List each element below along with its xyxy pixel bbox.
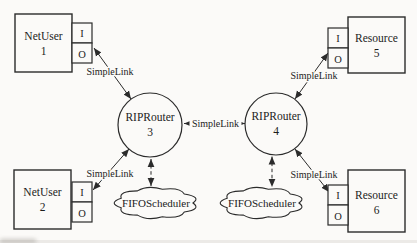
fifoscheduler-right: FIFOScheduler xyxy=(220,187,302,218)
topology-diagram: NetUser 1 I O Resource 5 I O NetUser 2 I… xyxy=(0,0,417,243)
router3-title: RIPRouter xyxy=(125,111,174,123)
node-riprouter-3: RIPRouter 3 xyxy=(118,93,182,157)
node-netuser-2: NetUser 2 I O xyxy=(14,170,92,229)
resource6-box xyxy=(348,170,405,232)
resource6-input-label: I xyxy=(336,190,340,201)
netuser1-box xyxy=(15,14,72,72)
fifoscheduler-right-label: FIFOScheduler xyxy=(228,197,296,209)
simplelink-label-resource5: SimpleLink xyxy=(290,70,337,81)
router3-number: 3 xyxy=(147,126,153,138)
router4-number: 4 xyxy=(273,125,279,137)
netuser1-number: 1 xyxy=(41,45,47,57)
simplelink-label-netuser1: SimpleLink xyxy=(86,66,133,77)
netuser1-input-label: I xyxy=(80,28,84,39)
node-riprouter-4: RIPRouter 4 xyxy=(245,93,307,155)
scan-artifact-smudge xyxy=(0,239,36,243)
router4-circle xyxy=(245,93,307,155)
resource5-output-label: O xyxy=(334,54,342,65)
simplelink-label-routers: SimpleLink xyxy=(192,118,239,129)
netuser2-box xyxy=(14,170,71,229)
node-resource-6: Resource 6 I O xyxy=(328,170,405,232)
netuser2-input-label: I xyxy=(80,187,84,198)
router4-title: RIPRouter xyxy=(251,110,300,122)
resource6-output-label: O xyxy=(334,211,342,222)
router3-circle xyxy=(118,93,182,157)
resource6-title: Resource xyxy=(355,189,398,201)
fifoscheduler-left: FIFOScheduler xyxy=(114,187,196,218)
netuser2-number: 2 xyxy=(40,201,46,213)
netuser2-title: NetUser xyxy=(23,186,61,198)
resource5-number: 5 xyxy=(374,47,380,59)
netuser2-output-label: O xyxy=(78,208,86,219)
resource5-box xyxy=(348,17,405,73)
fifoscheduler-left-label: FIFOScheduler xyxy=(122,197,190,209)
netuser1-title: NetUser xyxy=(24,30,62,42)
simplelink-label-netuser2: SimpleLink xyxy=(86,168,133,179)
resource6-number: 6 xyxy=(374,204,380,216)
simplelink-label-resource6: SimpleLink xyxy=(290,169,337,180)
node-netuser-1: NetUser 1 I O xyxy=(15,14,92,72)
topology-figure: NetUser 1 I O Resource 5 I O NetUser 2 I… xyxy=(0,0,417,243)
node-resource-5: Resource 5 I O xyxy=(328,17,405,73)
netuser1-output-label: O xyxy=(78,49,86,60)
resource5-title: Resource xyxy=(355,32,398,44)
resource5-input-label: I xyxy=(336,33,340,44)
